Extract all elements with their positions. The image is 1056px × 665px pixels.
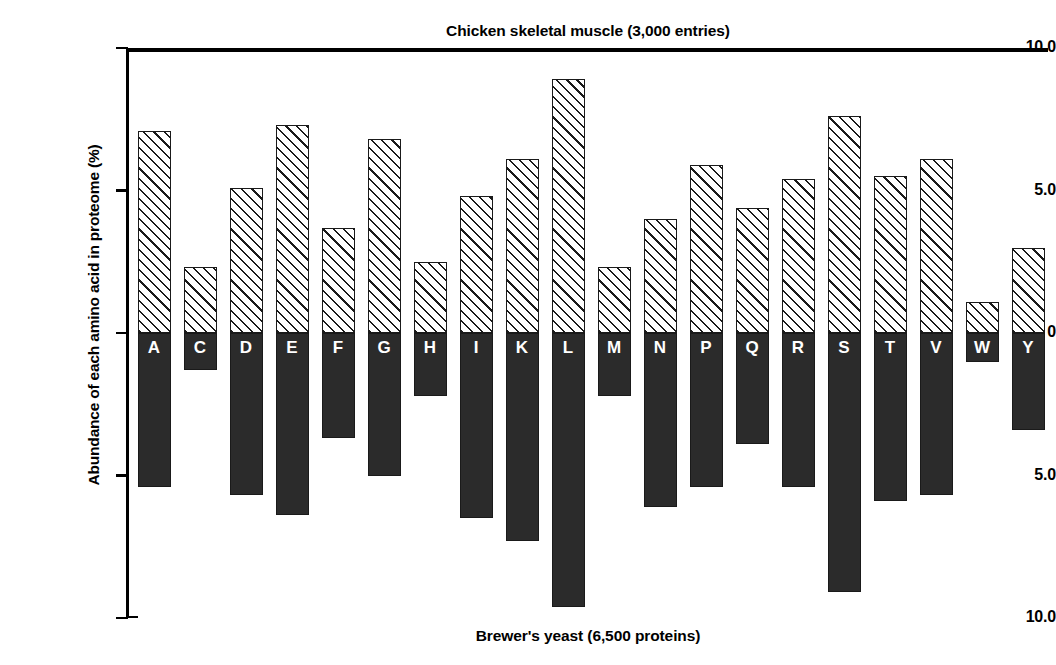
bar-chicken-M [598,267,631,333]
bar-yeast-A [138,333,171,487]
chart-figure: Chicken skeletal muscle (3,000 entries) … [0,0,1056,665]
plot-area: ACDEFGHIKLMNPQRSTVWY [128,48,1048,618]
bar-chicken-Q [736,208,769,333]
bar-chicken-V [920,159,953,333]
y-axis-tick [116,332,128,335]
bar-yeast-S [828,333,861,592]
y-axis-tick [116,189,128,192]
bar-column-H: H [414,48,447,618]
bar-yeast-L [552,333,585,607]
bar-column-S: S [828,48,861,618]
bar-column-D: D [230,48,263,618]
bar-yeast-G [368,333,401,476]
bar-column-P: P [690,48,723,618]
bar-column-T: T [874,48,907,618]
bar-chicken-L [552,79,585,333]
bar-yeast-W [966,333,999,362]
bar-yeast-I [460,333,493,518]
bar-column-L: L [552,48,585,618]
bar-chicken-C [184,267,217,333]
bar-column-K: K [506,48,539,618]
bar-yeast-D [230,333,263,495]
chart-footer-label: Brewer's yeast (6,500 proteins) [128,627,1048,645]
bar-column-G: G [368,48,401,618]
bar-column-F: F [322,48,355,618]
bar-chicken-K [506,159,539,333]
bar-column-E: E [276,48,309,618]
bar-chicken-Y [1012,248,1045,334]
y-axis-tick [116,474,128,477]
bar-yeast-Y [1012,333,1045,430]
bar-yeast-H [414,333,447,396]
bar-chicken-F [322,228,355,333]
bar-yeast-R [782,333,815,487]
bar-yeast-K [506,333,539,541]
bar-column-V: V [920,48,953,618]
bar-chicken-W [966,302,999,333]
bar-yeast-V [920,333,953,495]
zero-baseline [128,48,1048,52]
bar-yeast-N [644,333,677,507]
y-axis-label: Abundance of each amino acid in proteome… [85,35,103,595]
bar-yeast-P [690,333,723,487]
bar-column-I: I [460,48,493,618]
bar-chicken-H [414,262,447,333]
bar-column-C: C [184,48,217,618]
bar-chicken-T [874,176,907,333]
bar-chicken-S [828,116,861,333]
bar-column-W: W [966,48,999,618]
bar-column-R: R [782,48,815,618]
bar-yeast-E [276,333,309,515]
bar-column-N: N [644,48,677,618]
bar-column-M: M [598,48,631,618]
bar-chicken-I [460,196,493,333]
y-axis-tick [116,47,128,50]
bar-chicken-N [644,219,677,333]
bar-chicken-A [138,131,171,333]
chart-title: Chicken skeletal muscle (3,000 entries) [128,22,1048,40]
bar-chicken-E [276,125,309,333]
bar-yeast-C [184,333,217,370]
bar-yeast-M [598,333,631,396]
bar-chicken-P [690,165,723,333]
y-axis-tick [116,617,128,620]
bar-chicken-D [230,188,263,333]
bar-column-A: A [138,48,171,618]
bar-chicken-R [782,179,815,333]
bar-yeast-F [322,333,355,438]
bar-column-Q: Q [736,48,769,618]
bar-chicken-G [368,139,401,333]
bar-yeast-T [874,333,907,501]
bar-yeast-Q [736,333,769,444]
bar-column-Y: Y [1012,48,1045,618]
